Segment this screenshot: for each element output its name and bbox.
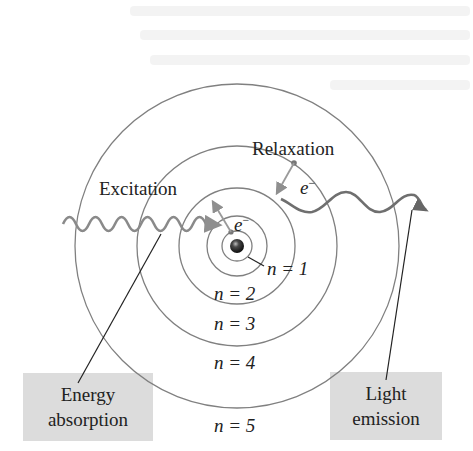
- energy-absorption-label: Energy absorption: [23, 382, 153, 432]
- light-emission-label: Light emission: [330, 381, 442, 431]
- relaxation-arrow: [277, 163, 294, 193]
- excitation-label: Excitation: [99, 178, 177, 200]
- nucleus-icon: [230, 239, 244, 253]
- orbit-label-n2: n = 2: [214, 283, 255, 305]
- energy-absorption-line2: absorption: [23, 407, 153, 432]
- orbit-label-n4: n = 4: [214, 352, 255, 374]
- electron-label-excitation: e−: [234, 209, 249, 236]
- light-emission-line2: emission: [330, 406, 442, 431]
- orbit-label-n5: n = 5: [214, 415, 255, 437]
- n1-leader-line: [248, 257, 264, 266]
- electron-charge: −: [308, 176, 315, 190]
- orbit-label-n1: n = 1: [267, 258, 308, 280]
- electron-label-relaxation: e−: [300, 172, 315, 199]
- energy-absorption-leader: [78, 234, 161, 383]
- orbit-label-n3: n = 3: [214, 313, 255, 335]
- energy-absorption-line1: Energy: [23, 382, 153, 407]
- relaxation-label: Relaxation: [252, 138, 334, 160]
- light-emission-line1: Light: [330, 381, 442, 406]
- bohr-diagram: Excitation Relaxation e− e− n = 1 n = 2 …: [0, 0, 473, 451]
- electron-charge: −: [242, 213, 249, 227]
